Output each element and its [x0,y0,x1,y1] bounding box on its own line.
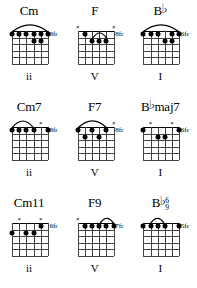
finger-dot [75,128,80,133]
string-line [19,223,20,256]
finger-dot [104,128,109,133]
flat-symbol: ♭ [162,1,168,16]
chord-name: B♭ [131,4,189,18]
chord-row: Cm8friiF××8frVB♭6frI [0,0,197,96]
fret-line [12,249,48,250]
finger-dot [82,32,87,37]
fretboard-diagram: ××6fr [138,118,196,164]
fret-grid [143,127,179,160]
finger-dot [141,224,146,229]
fretboard-diagram: 8fr [7,22,65,68]
fret-line [143,140,179,141]
finger-dot [31,128,36,133]
fret-position-label: 8fr [50,126,58,134]
chord-diagram-cell: Cm7×8frii [0,96,66,192]
fret-position-label: 7fr [115,222,123,230]
string-line [172,127,173,160]
muted-string-marker: × [17,216,21,222]
finger-dot [155,32,160,37]
fret-line [143,134,179,135]
chord-name: Cm7 [0,100,58,114]
roman-numeral-label: V [66,166,124,178]
barre-arc [7,22,65,68]
finger-dot [38,224,43,229]
finger-dot [24,32,29,37]
fret-position-label: 6fr [50,222,58,230]
finger-dot [17,32,22,37]
chord-diagram-cell: Cm11××6frii [0,192,66,288]
fretboard-diagram: ××6fr [7,214,65,260]
string-line [26,223,27,256]
fret-line [12,256,48,257]
muted-string-marker: × [112,24,116,30]
finger-dot [104,224,109,229]
finger-dot [97,134,102,139]
string-line [12,223,13,256]
string-line [158,127,159,160]
finger-dot [162,134,167,139]
barre-arc [7,118,65,164]
chord-row: Cm7×8friiF7×8frVB♭maj7××6frI [0,96,197,192]
finger-dot [31,32,36,37]
muted-string-marker: × [112,120,116,126]
finger-dot [155,224,160,229]
chord-diagram-cell: B♭695frI [131,192,197,288]
chord-row: Cm11××6friiF9×7frVB♭695frI [0,192,197,288]
finger-dot [162,38,167,43]
muted-string-marker: × [76,24,80,30]
roman-numeral-label: I [131,166,189,178]
chord-name: F9 [66,196,124,210]
chord-name: B♭maj7 [131,100,189,114]
roman-numeral-label: ii [0,166,58,178]
roman-numeral-label: ii [0,262,58,274]
chord-diagram-cell: B♭maj7××6frI [131,96,197,192]
roman-numeral-label: V [66,262,124,274]
muted-string-marker: × [149,120,153,126]
chord-suffix: maj7 [154,99,179,114]
fret-line [12,230,48,231]
fret-position-label: 8fr [115,30,123,38]
barre-arc [138,214,196,260]
muted-string-marker: × [170,120,174,126]
chord-diagram-cell: F7×8frV [66,96,132,192]
finger-dot [155,134,160,139]
fret-line [12,236,48,237]
chord-diagram-cell: Cm8frii [0,0,66,96]
chord-name: Cm11 [0,196,58,210]
fretboard-diagram: ××8fr [73,22,131,68]
fret-line [143,160,179,161]
fret-position-label: 5fr [181,222,189,230]
fret-position-label: 6fr [181,30,189,38]
string-line [165,127,166,160]
fretboard-diagram: 5fr [138,214,196,260]
finger-dot [31,230,36,235]
fret-position-label: 8fr [50,30,58,38]
nut-line [143,127,179,128]
finger-dot [90,224,95,229]
finger-dot [97,224,102,229]
chord-diagram-cell: B♭6frI [131,0,197,96]
finger-dot [10,128,15,133]
barre-arc [73,118,131,164]
fret-line [143,153,179,154]
finger-dot [24,128,29,133]
finger-dot [170,38,175,43]
fretboard-diagram: ×8fr [7,118,65,164]
finger-dot [38,38,43,43]
finger-dot [82,224,87,229]
finger-dot [31,38,36,43]
fret-line [12,243,48,244]
chord-name: B♭69 [131,196,189,211]
fretboard-diagram: 6fr [138,22,196,68]
fretboard-diagram: ×8fr [73,118,131,164]
finger-dot [162,224,167,229]
chord-chart-sheet: Cm8friiF××8frVB♭6frICm7×8friiF7×8frVB♭ma… [0,0,197,288]
barre-arc [138,22,196,68]
chord-diagram-cell: F9×7frV [66,192,132,288]
finger-dot [10,32,15,37]
fret-position-label: 6fr [181,126,189,134]
barre-arc [73,214,131,260]
fretboard-diagram: ×7fr [73,214,131,260]
finger-dot [170,32,175,37]
chord-name: Cm [0,4,58,18]
